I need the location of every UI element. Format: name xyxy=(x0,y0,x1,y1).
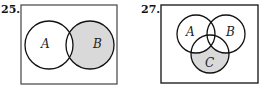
set-a-label: A xyxy=(40,37,50,51)
set-a-label: A xyxy=(185,25,195,39)
set-c-label: C xyxy=(205,56,214,70)
set-b-label: B xyxy=(225,25,235,39)
venn-diagrams: 25. A B 27. A B C xyxy=(0,0,267,92)
diagram-number: 27. xyxy=(141,3,160,16)
set-b-label: B xyxy=(92,37,102,51)
diagram-number: 25. xyxy=(1,3,20,16)
